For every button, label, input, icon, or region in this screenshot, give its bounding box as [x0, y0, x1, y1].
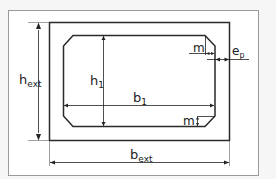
label-m-bottom: m	[183, 114, 195, 128]
box-section-diagram: hext h1 b1 bext ep m m	[0, 0, 276, 179]
label-m-top: m	[193, 41, 205, 55]
